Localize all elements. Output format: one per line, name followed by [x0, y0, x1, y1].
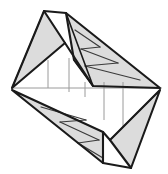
outline-lower-right-spine	[103, 132, 110, 140]
outline-lower-left-outline	[12, 90, 103, 163]
figure-canvas	[0, 0, 168, 174]
outline-top-notch-edge	[44, 11, 66, 13]
triangulation-diagram-svg	[0, 0, 168, 174]
